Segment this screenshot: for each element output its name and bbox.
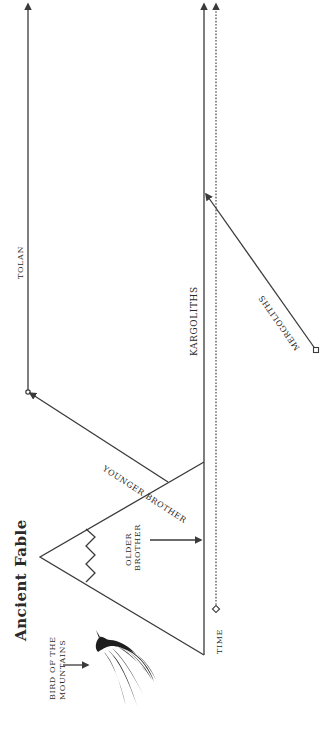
mountain-triangle-icon — [40, 462, 204, 655]
time-start-diamond — [212, 605, 219, 612]
bird-label: BIRD OF THE — [48, 637, 57, 700]
bird-of-the-mountains-icon — [96, 630, 156, 708]
younger-brother-line — [30, 393, 168, 482]
mergoliths-start-square — [314, 348, 319, 353]
kargoliths-label: KARGOLITHS — [189, 286, 199, 356]
mergoliths-line — [206, 194, 316, 350]
mountain-ridge-icon — [86, 529, 95, 582]
fable-diagram: Ancient Fable BIRD OF THE MOUNTAINS OLDE… — [0, 0, 331, 729]
older-brother-label: OLDER — [124, 532, 133, 566]
bird-label-line2: MOUNTAINS — [58, 640, 67, 700]
tolan-label: TOLAN — [16, 246, 25, 279]
mergoliths-label: MERGOLITHS — [257, 293, 302, 352]
time-label: TIME — [215, 629, 224, 654]
tolan-start-circle — [26, 390, 30, 394]
younger-brother-label: YOUNGER BROTHER — [100, 464, 188, 526]
title: Ancient Fable — [12, 519, 30, 642]
older-brother-label-line2: BROTHER — [133, 524, 142, 571]
